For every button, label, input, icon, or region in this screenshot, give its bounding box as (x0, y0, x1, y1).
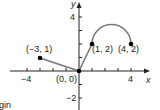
x-axis-label: x (146, 76, 151, 85)
point-label-4-2: (4, 2) (118, 45, 139, 54)
point-label-origin: (0, 0) (56, 75, 77, 84)
semicircle-arc (92, 25, 131, 44)
x-axis-arrow-icon (144, 69, 150, 74)
point-label-neg3-1: (−3, 1) (26, 45, 52, 54)
y-axis-label: y (71, 0, 76, 9)
point-origin (77, 69, 82, 74)
segment-left (40, 58, 79, 71)
x-tick-label-4: 4 (128, 75, 133, 84)
y-tick-label-neg2: −2 (66, 94, 76, 103)
point-label-1-2: (1, 2) (92, 45, 113, 54)
function-graph (0, 0, 160, 110)
y-tick-label-4: 4 (70, 13, 75, 22)
y-axis-arrow-icon (77, 2, 82, 8)
caption-text: rigin (0, 101, 11, 110)
point-neg3-1 (38, 56, 43, 61)
y-axis (77, 2, 83, 110)
x-tick-label-neg4: −4 (21, 75, 31, 84)
